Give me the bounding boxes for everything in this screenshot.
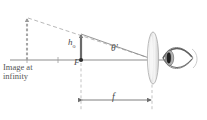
label-angle-theta-prime: θ′	[111, 44, 118, 54]
label-object-height: ho	[68, 38, 76, 49]
lens-highlight	[150, 36, 153, 80]
label-focal-length: f	[112, 92, 115, 103]
diagram-canvas	[0, 0, 207, 120]
label-image-at-infinity: Image at infinity	[3, 63, 49, 81]
label-focal-point: F	[74, 58, 80, 67]
label-object-height-subscript: o	[73, 43, 76, 49]
eye-icon	[163, 48, 197, 69]
magnifier-ray-diagram: Image at infinity ho F θ′ f	[0, 0, 207, 120]
